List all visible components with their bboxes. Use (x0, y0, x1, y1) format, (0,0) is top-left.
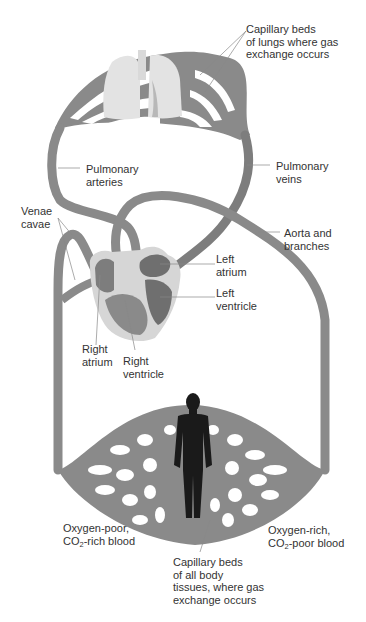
label-capillary-lungs: Capillary beds of lungs where gas exchan… (246, 23, 338, 61)
lung-capillary-bed (55, 50, 250, 140)
label-right-ventricle: Right ventricle (123, 355, 164, 380)
label-left-ventricle: Left ventricle (216, 287, 257, 312)
heart (90, 247, 181, 341)
label-left-atrium: Left atrium (216, 253, 247, 278)
right-atrium-chamber (95, 259, 114, 293)
label-pulmonary-veins: Pulmonary veins (276, 160, 329, 185)
left-lung-shape (103, 56, 140, 120)
label-oxygen-poor: Oxygen-poor, CO2-rich blood (63, 522, 135, 547)
label-right-atrium: Right atrium (82, 343, 113, 368)
label-capillary-body: Capillary beds of all body tissues, wher… (173, 556, 264, 606)
label-pulmonary-arteries: Pulmonary arteries (86, 163, 139, 188)
label-aorta: Aorta and branches (284, 227, 332, 252)
label-oxygen-rich: Oxygen-rich, CO2-poor blood (268, 524, 344, 549)
label-venae-cavae: Venae cavae (21, 205, 52, 230)
